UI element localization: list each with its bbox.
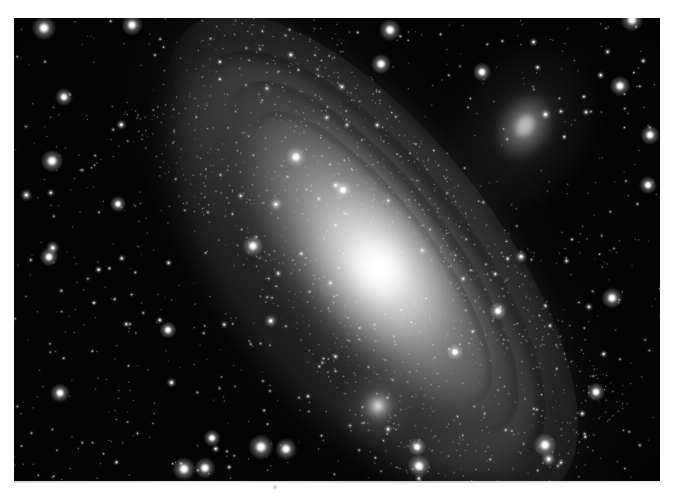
night-sky-background <box>14 18 660 481</box>
dust-speck <box>273 485 277 489</box>
astrophoto-plate <box>14 18 660 481</box>
plate-edge-streak <box>14 481 660 483</box>
photo-page <box>0 0 673 494</box>
